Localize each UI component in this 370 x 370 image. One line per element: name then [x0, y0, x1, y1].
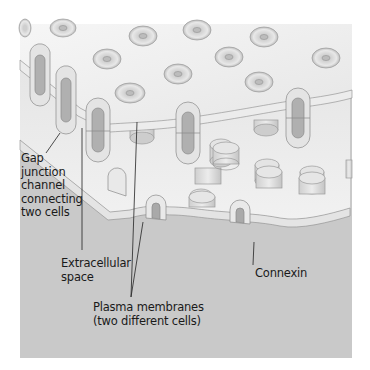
label-plasma-membranes: Plasma membranes (two different cells)	[93, 301, 204, 328]
label-gap-junction-channel: Gap junction channel connecting two cell…	[21, 152, 83, 220]
gap-junction-diagram: Gap junction channel connecting two cell…	[0, 0, 370, 370]
label-connexin: Connexin	[255, 267, 307, 281]
label-extracellular-space: Extracellular space	[61, 257, 131, 284]
